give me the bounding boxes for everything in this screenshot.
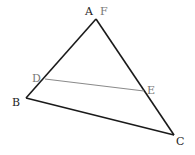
label-d: D [32,72,41,85]
label-e: E [147,84,155,97]
label-b: B [12,96,20,109]
segment-ac [96,19,174,135]
label-c: C [176,135,184,148]
triangle-diagram: A F D B E C [0,0,195,155]
segment-de [45,79,144,91]
segment-bc [26,98,174,135]
label-a: A [84,5,94,18]
segment-ab [26,19,96,98]
label-f: F [100,5,108,18]
